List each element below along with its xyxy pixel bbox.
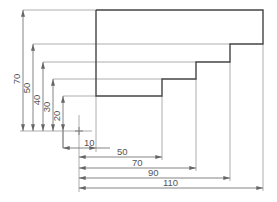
technical-drawing: 70 50 40 30 20 10 50 70 90 110: [0, 0, 277, 202]
vdim-label-30: 30: [41, 102, 52, 113]
hdim-label-50: 50: [117, 146, 128, 157]
vertical-dimension-labels: 70 50 40 30 20: [11, 74, 62, 122]
part-outline: [96, 10, 263, 96]
hdim-label-110: 110: [163, 177, 178, 188]
vdim-label-50: 50: [21, 83, 32, 94]
hdim-label-10: 10: [84, 137, 95, 148]
horizontal-dimension-labels: 10 50 70 90 110: [84, 137, 178, 188]
vdim-label-70: 70: [11, 74, 22, 85]
origin-marker: [75, 127, 83, 135]
hdim-label-70: 70: [132, 157, 143, 168]
vdim-label-20: 20: [51, 111, 62, 122]
hdim-label-90: 90: [148, 167, 159, 178]
